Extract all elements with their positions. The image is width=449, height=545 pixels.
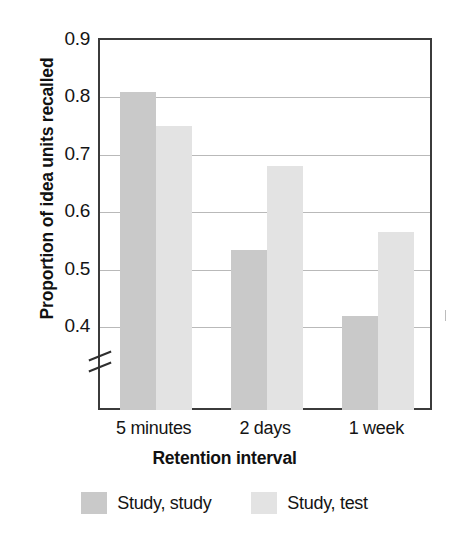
x-axis-title: Retention interval	[0, 448, 449, 469]
legend-swatch-Study-test	[251, 492, 277, 514]
legend-label: Study, study	[117, 493, 211, 514]
axis-break-slash-upper	[88, 351, 111, 362]
legend-item-Study-study[interactable]: Study, study	[81, 492, 211, 514]
bar-chart-figure: Proportion of idea units recalled 0.40.5…	[0, 0, 449, 545]
legend: Study, studyStudy, test	[0, 492, 449, 514]
bar-5-minutes-Study-study	[120, 92, 156, 410]
bar-2-days-Study-study	[231, 250, 267, 411]
y-tick-label-0.8: 0.8	[38, 86, 90, 105]
scan-artifact-mark	[445, 310, 446, 321]
bar-1-week-Study-test	[378, 232, 414, 410]
y-tick-label-0.4: 0.4	[38, 316, 90, 335]
y-tick-label-0.7: 0.7	[38, 144, 90, 163]
legend-label: Study, test	[287, 493, 367, 514]
bar-5-minutes-Study-test	[156, 126, 192, 410]
y-axis-break-icon	[88, 348, 112, 378]
axis-break-slash-lower	[88, 362, 111, 373]
legend-item-Study-test[interactable]: Study, test	[251, 492, 367, 514]
y-tick-label-0.5: 0.5	[38, 259, 90, 278]
y-tick-label-0.6: 0.6	[38, 201, 90, 220]
x-tick-label-1-week: 1 week	[296, 418, 449, 439]
legend-swatch-Study-study	[81, 492, 107, 514]
plot-area	[98, 38, 432, 410]
bar-2-days-Study-test	[267, 166, 303, 410]
bar-1-week-Study-study	[342, 316, 378, 411]
y-tick-label-0.9: 0.9	[38, 29, 90, 48]
